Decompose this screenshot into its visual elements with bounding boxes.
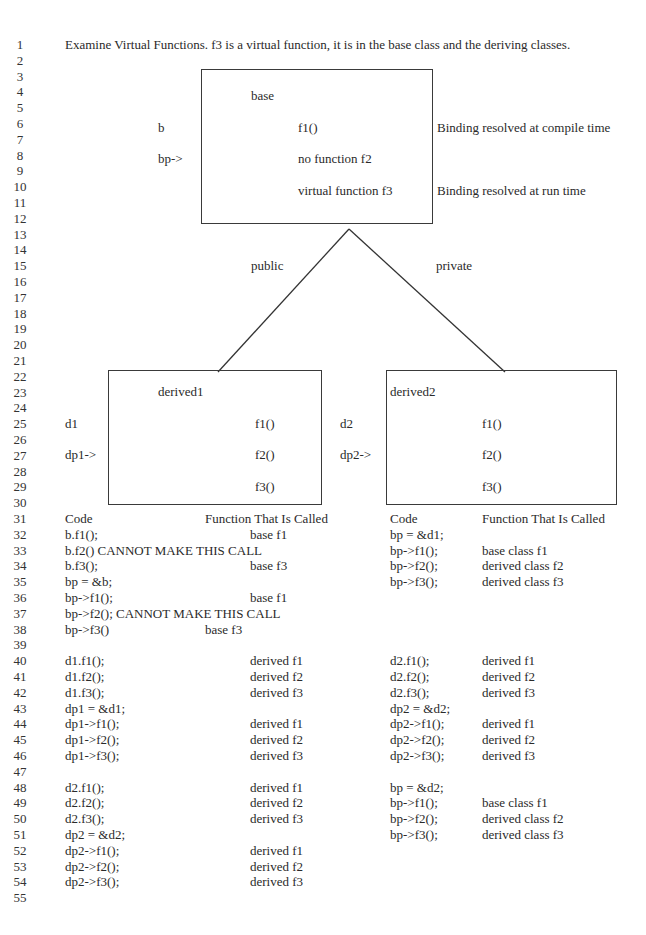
code-cell: bp->f2(); bbox=[390, 811, 438, 827]
left-func-header: Function That Is Called bbox=[205, 511, 328, 527]
function-called-cell: derived f1 bbox=[250, 653, 303, 669]
derived1-class-name: derived1 bbox=[158, 384, 203, 400]
code-cell: d2.f3(); bbox=[390, 685, 429, 701]
function-called-cell: base class f1 bbox=[482, 795, 548, 811]
code-cell: bp->f3(); bbox=[390, 827, 438, 843]
base-class-box bbox=[201, 69, 433, 224]
function-called-cell: derived f2 bbox=[250, 795, 303, 811]
code-cell: bp->f2(); CANNOT MAKE THIS CALL bbox=[65, 606, 281, 622]
code-cell: d2.f2(); bbox=[390, 669, 429, 685]
derived1-f1: f1() bbox=[255, 416, 275, 432]
left-code-header: Code bbox=[65, 511, 92, 527]
derived2-f1: f1() bbox=[482, 416, 502, 432]
derived1-class-box bbox=[108, 370, 322, 505]
derived1-f2: f2() bbox=[255, 447, 275, 463]
function-called-cell: base f3 bbox=[250, 558, 287, 574]
function-called-cell: base f1 bbox=[250, 590, 287, 606]
private-inheritance-line bbox=[349, 229, 505, 372]
compile-time-note: Binding resolved at compile time bbox=[437, 120, 610, 136]
function-called-cell: derived f2 bbox=[250, 669, 303, 685]
function-called-cell: derived f1 bbox=[482, 653, 535, 669]
function-called-cell: derived f1 bbox=[250, 843, 303, 859]
right-func-header: Function That Is Called bbox=[482, 511, 605, 527]
code-cell: dp1->f1(); bbox=[65, 716, 119, 732]
base-virtual-f3: virtual function f3 bbox=[298, 183, 393, 199]
code-cell: d1.f2(); bbox=[65, 669, 104, 685]
function-called-cell: derived f2 bbox=[482, 732, 535, 748]
code-cell: d2.f1(); bbox=[390, 653, 429, 669]
code-cell: bp->f1(); bbox=[390, 543, 438, 559]
code-cell: d1.f3(); bbox=[65, 685, 104, 701]
function-called-cell: derived f3 bbox=[250, 811, 303, 827]
function-called-cell: base f3 bbox=[205, 622, 242, 638]
code-cell: dp2->f2(); bbox=[65, 859, 119, 875]
code-cell: d2.f1(); bbox=[65, 780, 104, 796]
base-f1: f1() bbox=[298, 120, 318, 136]
code-cell: dp2->f3(); bbox=[390, 748, 444, 764]
function-called-cell: derived f3 bbox=[482, 685, 535, 701]
code-cell: bp->f3() bbox=[65, 622, 109, 638]
code-cell: dp2 = &d2; bbox=[390, 701, 450, 717]
function-called-cell: base f1 bbox=[250, 527, 287, 543]
function-called-cell: base class f1 bbox=[482, 543, 548, 559]
function-called-cell: derived class f2 bbox=[482, 811, 564, 827]
code-cell: dp2->f1(); bbox=[390, 716, 444, 732]
code-cell: d2.f2(); bbox=[65, 795, 104, 811]
derived2-object-label: d2 bbox=[340, 416, 353, 432]
derived1-object-label: d1 bbox=[65, 416, 78, 432]
code-cell: bp->f2(); bbox=[390, 558, 438, 574]
run-time-note: Binding resolved at run time bbox=[437, 183, 586, 199]
code-cell: dp1 = &d1; bbox=[65, 701, 125, 717]
code-cell: b.f1(); bbox=[65, 527, 98, 543]
derived1-pointer-label: dp1-> bbox=[65, 447, 96, 463]
derived1-f3: f3() bbox=[255, 479, 275, 495]
function-called-cell: derived f3 bbox=[482, 748, 535, 764]
code-cell: dp1->f3(); bbox=[65, 748, 119, 764]
base-class-name: base bbox=[251, 88, 274, 104]
base-pointer-label: bp-> bbox=[158, 151, 183, 167]
base-object-label: b bbox=[158, 120, 165, 136]
code-cell: bp = &b; bbox=[65, 574, 112, 590]
function-called-cell: derived f1 bbox=[250, 780, 303, 796]
function-called-cell: derived f2 bbox=[482, 669, 535, 685]
base-no-f2: no function f2 bbox=[298, 151, 372, 167]
code-cell: d1.f1(); bbox=[65, 653, 104, 669]
derived2-f2: f2() bbox=[482, 447, 502, 463]
code-cell: bp->f1(); bbox=[390, 795, 438, 811]
code-cell: dp2->f2(); bbox=[390, 732, 444, 748]
function-called-cell: derived f3 bbox=[250, 748, 303, 764]
public-label: public bbox=[251, 258, 284, 274]
right-code-header: Code bbox=[390, 511, 417, 527]
code-cell: b.f3(); bbox=[65, 558, 98, 574]
function-called-cell: derived f2 bbox=[250, 732, 303, 748]
code-cell: bp->f1(); bbox=[65, 590, 113, 606]
private-label: private bbox=[436, 258, 472, 274]
derived2-class-name: derived2 bbox=[390, 384, 435, 400]
code-cell: bp->f3(); bbox=[390, 574, 438, 590]
derived2-pointer-label: dp2-> bbox=[340, 447, 371, 463]
code-cell: dp2->f3(); bbox=[65, 874, 119, 890]
function-called-cell: derived class f3 bbox=[482, 574, 564, 590]
function-called-cell: derived f3 bbox=[250, 874, 303, 890]
function-called-cell: derived class f3 bbox=[482, 827, 564, 843]
code-cell: dp1->f2(); bbox=[65, 732, 119, 748]
code-cell: dp2 = &d2; bbox=[65, 827, 125, 843]
function-called-cell: derived f2 bbox=[250, 859, 303, 875]
function-called-cell: derived class f2 bbox=[482, 558, 564, 574]
code-cell: dp2->f1(); bbox=[65, 843, 119, 859]
code-cell: b.f2() CANNOT MAKE THIS CALL bbox=[65, 543, 262, 559]
public-inheritance-line bbox=[218, 229, 349, 372]
code-cell: bp = &d2; bbox=[390, 780, 444, 796]
code-cell: bp = &d1; bbox=[390, 527, 444, 543]
function-called-cell: derived f1 bbox=[482, 716, 535, 732]
function-called-cell: derived f3 bbox=[250, 685, 303, 701]
function-called-cell: derived f1 bbox=[250, 716, 303, 732]
code-cell: d2.f3(); bbox=[65, 811, 104, 827]
derived2-f3: f3() bbox=[482, 479, 502, 495]
